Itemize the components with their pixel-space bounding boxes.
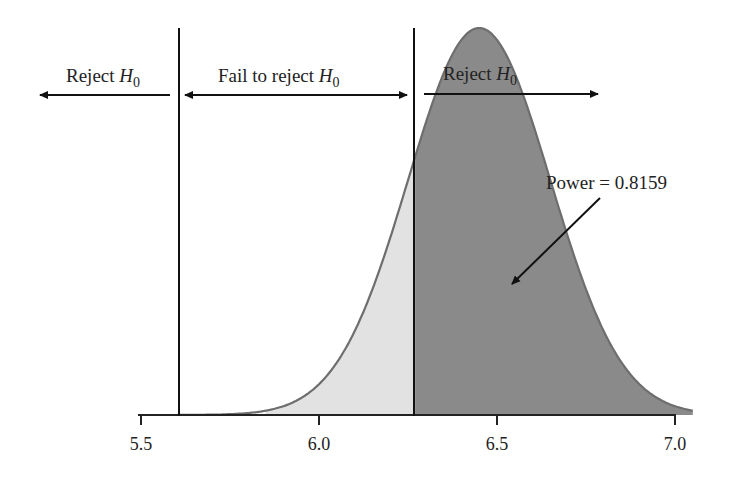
power-region — [415, 28, 693, 415]
beta-region — [266, 157, 416, 415]
x-tick-label: 5.5 — [130, 434, 153, 454]
power-label: Power = 0.8159 — [546, 172, 667, 193]
x-axis-ticks: 5.56.06.57.0 — [130, 415, 687, 454]
x-tick-label: 6.5 — [486, 434, 509, 454]
power-chart: 5.56.06.57.0 Reject H0 Fail to reject H0… — [0, 0, 734, 478]
x-tick-label: 6.0 — [308, 434, 331, 454]
x-tick-label: 7.0 — [664, 434, 687, 454]
fail-to-reject-label: Fail to reject H0 — [218, 65, 340, 90]
distribution-areas — [141, 28, 693, 415]
reject-left-label: Reject H0 — [66, 65, 140, 90]
